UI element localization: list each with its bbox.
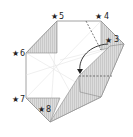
svg-text:★: ★ [12, 49, 19, 58]
svg-text:★: ★ [95, 12, 102, 21]
marker-7: ★ 7 [12, 95, 25, 104]
svg-text:★: ★ [51, 12, 58, 21]
svg-text:★: ★ [105, 36, 112, 45]
svg-text:8: 8 [46, 105, 51, 114]
svg-text:5: 5 [59, 12, 64, 21]
svg-text:★: ★ [12, 95, 19, 104]
marker-6: ★ 6 [12, 49, 25, 58]
svg-text:7: 7 [20, 95, 25, 104]
svg-text:3: 3 [114, 35, 119, 44]
svg-text:4: 4 [104, 12, 109, 21]
origami-diagram: ★ 3 ★ 4 ★ 5 ★ 6 ★ 7 ★ 8 [0, 0, 133, 137]
marker-3: ★ 3 [105, 35, 119, 45]
flap-top-left [26, 21, 57, 53]
marker-4: ★ 4 [95, 12, 109, 21]
svg-text:6: 6 [20, 49, 25, 58]
marker-5: ★ 5 [51, 12, 64, 21]
marker-8: ★ 8 [38, 105, 51, 114]
svg-text:★: ★ [38, 105, 45, 114]
